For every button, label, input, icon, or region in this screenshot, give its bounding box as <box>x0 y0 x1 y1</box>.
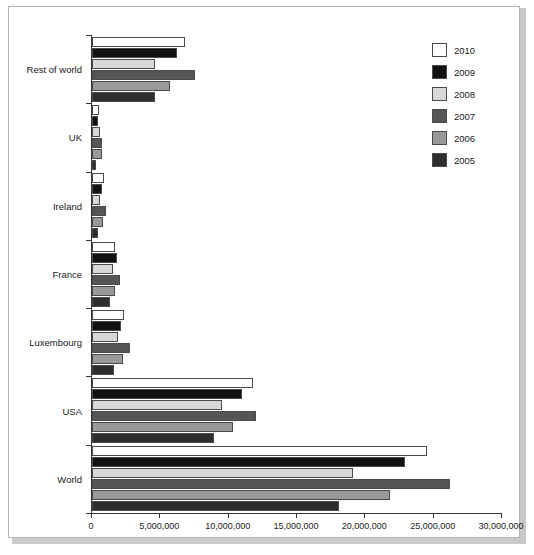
y-tick <box>86 445 91 446</box>
x-tick <box>159 513 160 518</box>
bar-usa-2006[interactable] <box>92 422 233 432</box>
x-tick-label: 15,000,000 <box>273 521 318 532</box>
y-tick <box>86 376 91 377</box>
chart-legend: 201020092008200720062005 <box>432 39 475 171</box>
legend-item-label: 2007 <box>454 111 475 122</box>
category-label-world: World <box>57 473 82 484</box>
x-tick-label: 20,000,000 <box>342 521 387 532</box>
y-tick <box>86 103 91 104</box>
bar-world-2007[interactable] <box>92 479 450 489</box>
y-tick <box>86 513 91 514</box>
bar-ireland-2005[interactable] <box>92 228 98 238</box>
legend-swatch-icon <box>432 131 447 145</box>
bar-ireland-2010[interactable] <box>92 173 104 183</box>
x-tick <box>433 513 434 518</box>
bar-rest-of-world-2008[interactable] <box>92 59 155 69</box>
bar-rest-of-world-2007[interactable] <box>92 70 195 80</box>
bar-group <box>92 446 502 511</box>
bar-france-2006[interactable] <box>92 286 115 296</box>
bar-usa-2005[interactable] <box>92 433 214 443</box>
bar-group <box>92 310 502 375</box>
bar-ireland-2006[interactable] <box>92 217 103 227</box>
category-label-ireland: Ireland <box>53 200 82 211</box>
legend-item-2008[interactable]: 2008 <box>432 83 475 105</box>
bar-group <box>92 242 502 307</box>
legend-item-2005[interactable]: 2005 <box>432 149 475 171</box>
bar-usa-2008[interactable] <box>92 400 222 410</box>
category-label-usa: USA <box>62 405 82 416</box>
y-tick <box>86 240 91 241</box>
bar-ireland-2008[interactable] <box>92 195 100 205</box>
bar-luxembourg-2007[interactable] <box>92 343 130 353</box>
bar-usa-2007[interactable] <box>92 411 256 421</box>
y-tick <box>86 172 91 173</box>
bar-france-2005[interactable] <box>92 297 110 307</box>
legend-item-label: 2005 <box>454 155 475 166</box>
bar-rest-of-world-2009[interactable] <box>92 48 177 58</box>
chart-frame: 05,000,00010,000,00015,000,00020,000,000… <box>8 6 520 538</box>
bar-uk-2008[interactable] <box>92 127 100 137</box>
bar-world-2005[interactable] <box>92 501 339 511</box>
x-tick-label: 30,000,000 <box>478 521 523 532</box>
legend-item-2007[interactable]: 2007 <box>432 105 475 127</box>
bar-usa-2010[interactable] <box>92 378 253 388</box>
legend-item-2009[interactable]: 2009 <box>432 61 475 83</box>
legend-item-label: 2008 <box>454 89 475 100</box>
y-tick <box>86 35 91 36</box>
x-tick-label: 25,000,000 <box>410 521 455 532</box>
x-tick-label: 10,000,000 <box>205 521 250 532</box>
bar-luxembourg-2009[interactable] <box>92 321 121 331</box>
bar-luxembourg-2006[interactable] <box>92 354 123 364</box>
legend-swatch-icon <box>432 43 447 57</box>
bar-usa-2009[interactable] <box>92 389 242 399</box>
bar-luxembourg-2010[interactable] <box>92 310 124 320</box>
bar-rest-of-world-2005[interactable] <box>92 92 155 102</box>
bar-uk-2006[interactable] <box>92 149 102 159</box>
legend-item-label: 2009 <box>454 67 475 78</box>
x-tick-label: 5,000,000 <box>139 521 179 532</box>
bar-group <box>92 378 502 443</box>
bar-rest-of-world-2006[interactable] <box>92 81 170 91</box>
bar-france-2008[interactable] <box>92 264 113 274</box>
legend-item-label: 2006 <box>454 133 475 144</box>
bar-ireland-2009[interactable] <box>92 184 102 194</box>
x-tick <box>296 513 297 518</box>
bar-luxembourg-2005[interactable] <box>92 365 114 375</box>
x-tick <box>91 513 92 518</box>
bar-world-2010[interactable] <box>92 446 427 456</box>
figure-shadow-bottom <box>12 538 524 544</box>
bar-uk-2007[interactable] <box>92 138 102 148</box>
bar-ireland-2007[interactable] <box>92 206 106 216</box>
category-label-luxembourg: Luxembourg <box>29 337 82 348</box>
legend-item-label: 2010 <box>454 45 475 56</box>
chart-figure: 05,000,00010,000,00015,000,00020,000,000… <box>0 0 534 555</box>
bar-world-2008[interactable] <box>92 468 353 478</box>
legend-item-2010[interactable]: 2010 <box>432 39 475 61</box>
bar-france-2009[interactable] <box>92 253 117 263</box>
bar-france-2010[interactable] <box>92 242 115 252</box>
x-tick <box>501 513 502 518</box>
x-tick <box>364 513 365 518</box>
x-tick <box>228 513 229 518</box>
bar-uk-2010[interactable] <box>92 105 99 115</box>
legend-swatch-icon <box>432 153 447 167</box>
category-label-uk: UK <box>69 132 82 143</box>
bar-world-2006[interactable] <box>92 490 390 500</box>
category-label-rest-of-world: Rest of world <box>27 64 82 75</box>
bar-uk-2005[interactable] <box>92 160 96 170</box>
category-label-france: France <box>52 269 82 280</box>
legend-item-2006[interactable]: 2006 <box>432 127 475 149</box>
legend-swatch-icon <box>432 87 447 101</box>
bar-france-2007[interactable] <box>92 275 120 285</box>
legend-swatch-icon <box>432 109 447 123</box>
figure-shadow-right <box>520 8 526 544</box>
y-tick <box>86 308 91 309</box>
x-tick-label: 0 <box>88 521 93 532</box>
bar-world-2009[interactable] <box>92 457 405 467</box>
bar-uk-2009[interactable] <box>92 116 98 126</box>
bar-luxembourg-2008[interactable] <box>92 332 118 342</box>
bar-group <box>92 173 502 238</box>
bar-rest-of-world-2010[interactable] <box>92 37 185 47</box>
legend-swatch-icon <box>432 65 447 79</box>
